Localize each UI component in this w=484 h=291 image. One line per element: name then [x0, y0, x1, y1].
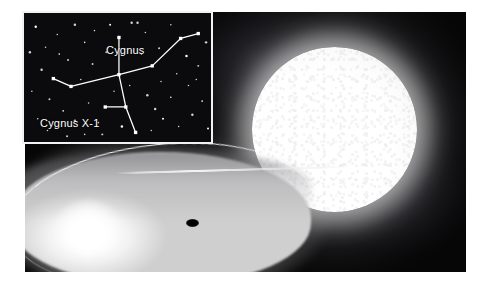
field-star	[101, 133, 103, 135]
constellation-line	[53, 79, 71, 87]
field-star	[80, 79, 82, 81]
field-star	[62, 110, 64, 112]
field-star	[47, 130, 49, 132]
constellation-star	[124, 105, 127, 108]
constellation-star	[117, 36, 120, 39]
constellation-star	[117, 73, 120, 76]
field-star	[84, 134, 86, 136]
field-star	[170, 24, 172, 26]
field-star	[205, 41, 207, 43]
field-star	[196, 79, 198, 81]
constellation-star	[179, 37, 182, 40]
field-star	[154, 108, 156, 110]
field-star	[31, 91, 33, 93]
field-star	[146, 94, 148, 96]
field-star	[191, 114, 193, 116]
cygnus-constellation-inset: Cygnus Cygnus X-1	[22, 11, 213, 144]
field-star	[207, 128, 209, 130]
constellation-star	[151, 64, 154, 67]
field-star	[197, 65, 199, 67]
field-star	[48, 98, 50, 100]
field-star	[56, 34, 58, 36]
field-star	[109, 24, 111, 26]
field-star	[94, 30, 96, 32]
field-star	[92, 63, 94, 65]
field-star	[113, 91, 115, 93]
constellation-line	[152, 38, 180, 65]
constellation-star	[134, 131, 137, 134]
field-star	[158, 47, 160, 49]
field-star	[88, 102, 90, 104]
field-star	[129, 85, 131, 87]
field-star	[176, 73, 178, 75]
field-star	[58, 53, 60, 55]
field-star	[150, 130, 152, 132]
field-star	[145, 32, 147, 34]
constellation-line	[181, 34, 199, 39]
figure-canvas: Cygnus Cygnus X-1	[0, 0, 484, 291]
field-star	[178, 126, 180, 128]
field-star	[201, 100, 203, 102]
field-star	[121, 125, 123, 127]
field-star	[170, 96, 172, 98]
field-star	[66, 135, 68, 137]
field-star	[29, 51, 31, 53]
field-star	[136, 22, 138, 24]
constellation-line	[126, 107, 136, 132]
field-star	[74, 24, 76, 26]
constellation-line	[119, 75, 126, 107]
field-star	[35, 25, 37, 27]
field-star	[160, 81, 162, 83]
constellation-line	[71, 75, 119, 87]
cygnus-x1-label: Cygnus X-1	[40, 117, 99, 129]
constellation-star	[104, 105, 107, 108]
field-star	[188, 85, 190, 87]
field-star	[45, 46, 47, 48]
field-star	[67, 59, 69, 61]
constellation-star	[69, 85, 72, 88]
constellation-star	[52, 77, 55, 80]
constellation-star	[197, 32, 200, 35]
field-star	[84, 42, 86, 44]
field-star	[40, 69, 42, 71]
black-hole	[186, 219, 199, 227]
constellation-line	[119, 66, 152, 75]
field-star	[37, 118, 39, 120]
constellation-label: Cygnus	[106, 44, 145, 56]
field-star	[185, 55, 187, 57]
field-star	[162, 118, 164, 120]
disk-impact-hotspot	[53, 200, 123, 258]
field-star	[130, 22, 132, 24]
